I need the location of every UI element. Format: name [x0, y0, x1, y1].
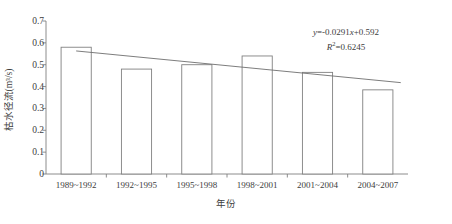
equation-slope: =-0.0291 — [317, 27, 350, 37]
y-axis-tick-label: 0.5 — [18, 60, 44, 70]
bar — [302, 72, 332, 174]
y-axis-title: 枯水径流(m³/s) — [2, 52, 16, 148]
y-axis-tick-label: 0.4 — [18, 82, 44, 92]
r-squared-value: =0.6245 — [335, 42, 365, 52]
bar — [242, 56, 272, 174]
y-axis-tick-label: 0.3 — [18, 103, 44, 113]
x-axis-tick-label: 1995~1998 — [167, 179, 227, 191]
x-axis-tick-labels: 1989~19921992~19951995~19981998~20012001… — [46, 179, 408, 193]
y-axis-tick-label: 0 — [18, 169, 44, 179]
y-axis-tick-label: 0.2 — [18, 125, 44, 135]
bar — [121, 69, 151, 174]
x-axis-tick-label: 2001~2004 — [287, 179, 347, 191]
trendline-equation: y=-0.0291x+0.592 — [288, 27, 404, 38]
bar — [363, 90, 393, 174]
trendline-annotation: y=-0.0291x+0.592 R2=0.6245 — [288, 27, 404, 53]
y-axis-tick-labels: 00.10.20.30.40.50.60.7 — [18, 14, 44, 180]
bar — [182, 65, 212, 174]
y-axis-tick-label: 0.1 — [18, 147, 44, 157]
bars-group — [61, 47, 393, 177]
x-axis-title: 年份 — [0, 198, 452, 211]
x-axis-tick-label: 1989~1992 — [46, 179, 106, 191]
y-axis-tick-label: 0.6 — [18, 38, 44, 48]
equation-intercept: +0.592 — [354, 27, 379, 37]
x-axis-tick-label: 1998~2001 — [227, 179, 287, 191]
bar — [61, 47, 91, 174]
chart-container: 枯水径流(m³/s) 00.10.20.30.40.50.60.7 y=-0.0… — [0, 0, 452, 224]
r-squared-label: R2=0.6245 — [288, 38, 404, 53]
x-axis-tick-label: 2004~2007 — [348, 179, 408, 191]
y-axis-tick-label: 0.7 — [18, 16, 44, 26]
x-axis-tick-label: 1992~1995 — [106, 179, 166, 191]
